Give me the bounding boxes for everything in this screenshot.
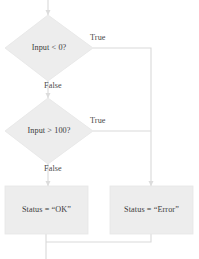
- edge-error-to-merge: [46, 234, 151, 242]
- flowchart-diagram: Input < 0? Input > 100? Status = “OK” St…: [0, 0, 199, 259]
- decision-input-negative[interactable]: [5, 15, 93, 81]
- process-status-ok[interactable]: [5, 186, 88, 234]
- edge-label-decision2-false: False: [44, 164, 62, 173]
- edge-label-decision1-false: False: [44, 81, 62, 90]
- process-status-error[interactable]: [110, 186, 193, 234]
- decision-input-over-100[interactable]: [5, 98, 93, 164]
